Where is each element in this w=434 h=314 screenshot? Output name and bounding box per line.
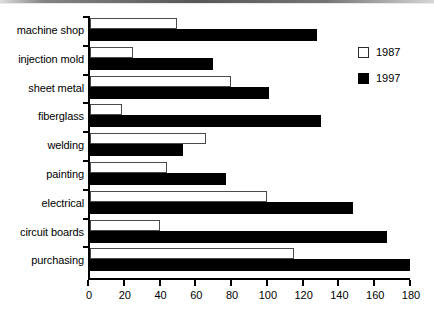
filled-square-icon [358, 73, 369, 84]
bar-1997 [90, 231, 387, 243]
x-axis-tick-label: 80 [212, 289, 252, 301]
y-axis-tick [83, 218, 89, 220]
y-axis-tick [83, 45, 89, 47]
y-axis-tick [83, 189, 89, 191]
x-axis-tick [302, 280, 304, 286]
x-axis-tick-label: 60 [176, 289, 216, 301]
category-label-row: circuit boards [0, 227, 84, 239]
y-axis-tick [83, 74, 89, 76]
category-label-row: electrical [0, 198, 84, 210]
y-axis-tick [83, 160, 89, 162]
bar-1997 [90, 259, 410, 271]
category-label: sheet metal [0, 83, 84, 94]
bar-1997 [90, 144, 183, 156]
bar-1997 [90, 58, 213, 70]
bar-1987 [90, 162, 167, 173]
x-axis-tick-label: 140 [319, 289, 359, 301]
x-axis-tick-label: 120 [284, 289, 324, 301]
bar-chart: machine shopinjection moldsheet metalfib… [0, 0, 434, 314]
bar-1987 [90, 220, 160, 231]
y-axis-tick [83, 131, 89, 133]
y-axis-tick [83, 16, 89, 18]
bar-1997 [90, 87, 269, 99]
y-axis-tick [83, 246, 89, 248]
x-axis-tick-label: 40 [141, 289, 181, 301]
x-axis-tick [87, 280, 89, 286]
x-axis-tick [373, 280, 375, 286]
x-axis-tick-label: 0 [69, 289, 109, 301]
bar-1987 [90, 104, 122, 115]
legend-item-1987[interactable]: 1987 [358, 44, 430, 60]
category-label: fiberglass [0, 111, 84, 122]
x-axis-tick [159, 280, 161, 286]
category-label: injection mold [0, 54, 84, 65]
x-axis-line [88, 278, 410, 280]
bar-1987 [90, 248, 294, 259]
bar-1987 [90, 47, 133, 58]
bar-1997 [90, 29, 317, 41]
category-label: purchasing [0, 255, 84, 266]
bar-1997 [90, 173, 226, 185]
x-axis-tick [194, 280, 196, 286]
legend-label-1997: 1997 [376, 73, 400, 84]
bar-1987 [90, 76, 231, 87]
x-axis-tick [230, 280, 232, 286]
category-label-row: injection mold [0, 54, 84, 66]
x-axis-tick-label: 100 [248, 289, 288, 301]
y-axis-tick [83, 102, 89, 104]
chart-legend: 1987 1997 [358, 44, 430, 96]
category-label: circuit boards [0, 227, 84, 238]
category-label-row: welding [0, 140, 84, 152]
bar-1997 [90, 115, 321, 127]
x-axis-tick-label: 20 [105, 289, 145, 301]
bar-1987 [90, 133, 206, 144]
bar-1987 [90, 18, 177, 29]
x-axis-tick [123, 280, 125, 286]
category-label-row: fiberglass [0, 111, 84, 123]
x-axis-tick [337, 280, 339, 286]
category-label-row: machine shop [0, 25, 84, 37]
category-label: electrical [0, 198, 84, 209]
x-axis-tick-label: 180 [391, 289, 431, 301]
x-axis-tick [409, 280, 411, 286]
category-label: painting [0, 169, 84, 180]
legend-label-1987: 1987 [376, 47, 400, 58]
bar-1997 [90, 202, 353, 214]
category-label-row: sheet metal [0, 83, 84, 95]
category-label: welding [0, 140, 84, 151]
hollow-square-icon [358, 47, 369, 58]
bar-1987 [90, 191, 267, 202]
category-label: machine shop [0, 25, 84, 36]
legend-item-1997[interactable]: 1997 [358, 70, 430, 86]
x-axis-tick [266, 280, 268, 286]
category-label-row: painting [0, 169, 84, 181]
x-axis-tick-label: 160 [355, 289, 395, 301]
category-label-row: purchasing [0, 255, 84, 267]
